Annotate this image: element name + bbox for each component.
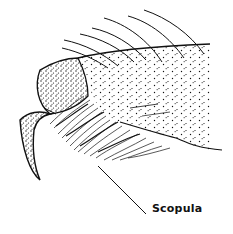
scopula-diagram <box>0 0 233 234</box>
claw-base <box>37 58 88 114</box>
claw <box>20 112 50 180</box>
label-scopula: Scopula <box>152 202 202 215</box>
leader-line <box>98 166 146 214</box>
